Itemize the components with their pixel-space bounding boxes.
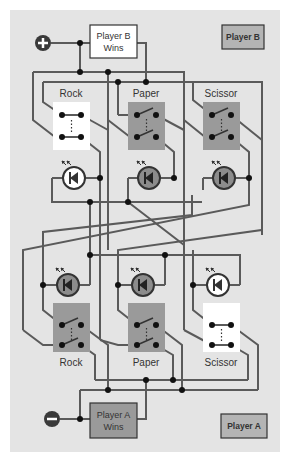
bottom-paper-switch[interactable] xyxy=(128,303,165,352)
player-a-wins-line1: Player A xyxy=(97,410,131,420)
player-b-wins-line2: Wins xyxy=(104,43,124,53)
top-paper-switch[interactable] xyxy=(128,102,165,150)
top-scissor-label: Scissor xyxy=(205,88,238,99)
player-a-label: Player A xyxy=(227,421,261,431)
player-b-label-box: Player B xyxy=(222,25,264,49)
negative-terminal-icon xyxy=(44,411,60,427)
positive-terminal-icon xyxy=(35,35,51,51)
bottom-rock-label: Rock xyxy=(60,357,84,368)
player-b-wins-box: Player B Wins xyxy=(90,25,137,58)
bottom-scissor-label: Scissor xyxy=(205,357,238,368)
bottom-paper-label: Paper xyxy=(133,357,160,368)
top-paper-label: Paper xyxy=(133,88,160,99)
player-a-wins-box: Player A Wins xyxy=(90,403,137,438)
bottom-rock-switch[interactable] xyxy=(53,303,90,352)
top-rock-label: Rock xyxy=(60,88,84,99)
circuit-diagram: Player B Wins Player B Player A Wins Pla… xyxy=(0,0,289,464)
bottom-scissor-switch[interactable] xyxy=(203,303,240,352)
top-rock-switch[interactable] xyxy=(53,102,90,150)
top-scissor-switch[interactable] xyxy=(203,102,240,150)
player-a-wins-line2: Wins xyxy=(104,422,124,432)
player-a-label-box: Player A xyxy=(221,414,267,438)
player-b-wins-line1: Player B xyxy=(96,31,130,41)
player-b-label: Player B xyxy=(226,32,260,42)
